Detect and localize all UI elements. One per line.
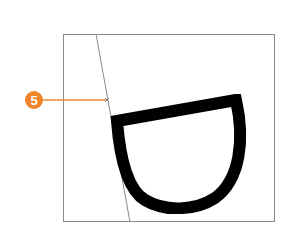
callout-number-5: 5 (25, 91, 43, 109)
diagram-canvas (0, 0, 293, 233)
